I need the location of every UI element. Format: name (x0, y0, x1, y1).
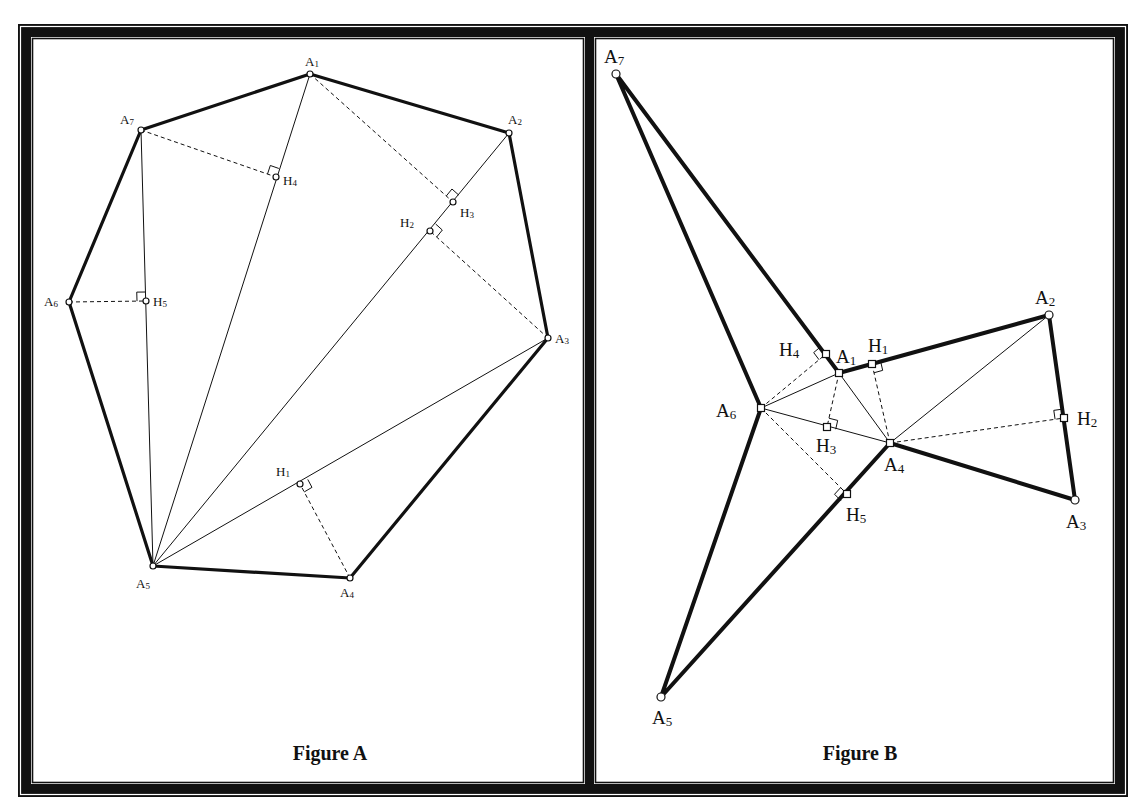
point-marker-h3 (824, 424, 831, 431)
point-marker-a4 (347, 575, 353, 581)
point-marker-h2 (1061, 415, 1068, 422)
point-marker-a1 (836, 370, 843, 377)
point-marker-h2 (427, 228, 433, 234)
point-marker-a5 (150, 563, 156, 569)
point-marker-h3 (450, 199, 456, 205)
point-marker-a2 (1045, 311, 1053, 319)
point-marker-a6 (66, 299, 72, 305)
point-marker-h1 (297, 481, 303, 487)
point-marker-h5 (143, 298, 149, 304)
point-marker-h4 (273, 174, 279, 180)
decorative-frame (18, 24, 1128, 797)
point-marker-h4 (823, 351, 830, 358)
figure-b-caption: Figure B (823, 742, 898, 765)
point-marker-a4 (887, 440, 894, 447)
point-marker-a6 (758, 405, 765, 412)
point-marker-a2 (506, 130, 512, 136)
point-marker-a5 (657, 693, 665, 701)
point-marker-h5 (844, 491, 851, 498)
panel-a-border (33, 39, 584, 783)
point-marker-a3 (1071, 496, 1079, 504)
diagram-canvas: A1A2A3A4A5A6A7H1H2H3H4H5 A1A2A3A4A5A6A7H… (0, 0, 1147, 805)
point-marker-a1 (307, 71, 313, 77)
point-marker-h1 (869, 361, 876, 368)
point-marker-a7 (138, 127, 144, 133)
figure-a-caption: Figure A (293, 742, 368, 765)
point-marker-a7 (612, 70, 620, 78)
point-marker-a3 (545, 335, 551, 341)
